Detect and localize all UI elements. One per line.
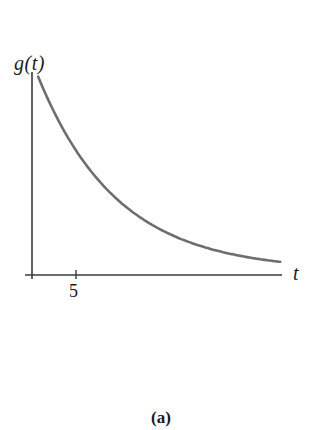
figure-caption: (a): [151, 408, 171, 428]
decay-curve: [38, 77, 280, 262]
x-tick-label-5: 5: [69, 281, 78, 302]
y-axis-label: g(t): [14, 52, 45, 75]
x-axis-label: t: [293, 262, 299, 285]
plot-area: [0, 0, 327, 430]
figure: g(t) t 5 (a): [0, 0, 327, 430]
